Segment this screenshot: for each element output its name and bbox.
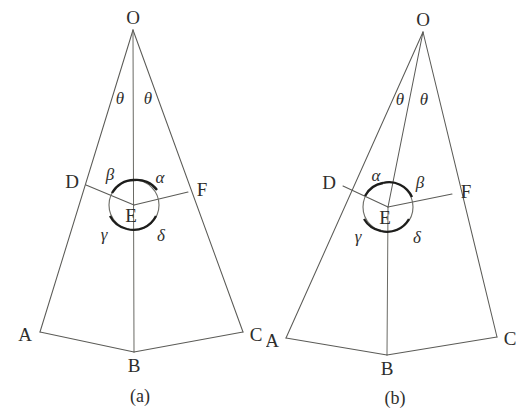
vertex-label-C: C xyxy=(250,324,263,345)
angle-label-theta-left: θ xyxy=(396,90,404,109)
vertex-label-A: A xyxy=(266,330,279,351)
vertex-label-F: F xyxy=(197,179,208,200)
vertex-label-D: D xyxy=(322,172,336,193)
angle-label-theta-left: θ xyxy=(116,89,124,108)
panel-caption-a: (a) xyxy=(130,386,150,407)
arc-mark-beta xyxy=(112,180,134,193)
diagram-panel-b: O A B C D E F θ θ α β γ δ (b) xyxy=(266,0,532,416)
vertex-label-O: O xyxy=(416,9,430,30)
segment-A-B xyxy=(40,332,134,352)
angle-label-alpha: α xyxy=(372,166,382,185)
segment-A-B xyxy=(286,338,387,355)
vertex-label-B: B xyxy=(381,358,394,379)
angle-label-beta: β xyxy=(105,165,115,184)
vertex-label-E: E xyxy=(125,205,137,226)
angle-label-delta: δ xyxy=(157,226,166,245)
vertex-label-E: E xyxy=(379,207,391,228)
vertex-label-B: B xyxy=(128,355,141,376)
segment-E-F xyxy=(134,192,188,205)
angle-label-alpha: α xyxy=(156,168,166,187)
segment-D-E xyxy=(86,185,134,205)
segment-E-F xyxy=(388,194,452,207)
panel-caption-b: (b) xyxy=(385,388,406,409)
segment-B-C xyxy=(134,332,243,352)
angle-label-theta-right: θ xyxy=(420,90,428,109)
segment-O-C xyxy=(133,30,243,332)
vertex-label-C: C xyxy=(504,328,517,349)
vertex-label-F: F xyxy=(461,181,472,202)
vertex-label-O: O xyxy=(126,7,140,28)
angle-label-theta-right: θ xyxy=(144,89,152,108)
angle-label-delta: δ xyxy=(413,228,422,247)
diagram-panel-a: O A B C D E F θ θ β α γ δ (a) xyxy=(0,0,266,416)
segment-O-B xyxy=(133,30,134,352)
arc-mark-beta xyxy=(383,182,412,197)
geometry-figure: O A B C D E F θ θ β α γ δ (a) O A xyxy=(0,0,532,416)
angle-label-gamma: γ xyxy=(101,225,109,244)
segment-O-A xyxy=(40,30,133,332)
vertex-label-A: A xyxy=(18,324,32,345)
angle-label-beta: β xyxy=(415,173,425,192)
segment-B-C xyxy=(387,337,497,355)
segment-E-B xyxy=(387,207,388,355)
arc-mark-alpha xyxy=(134,180,157,190)
vertex-label-D: D xyxy=(65,171,79,192)
angle-label-gamma: γ xyxy=(355,227,363,246)
